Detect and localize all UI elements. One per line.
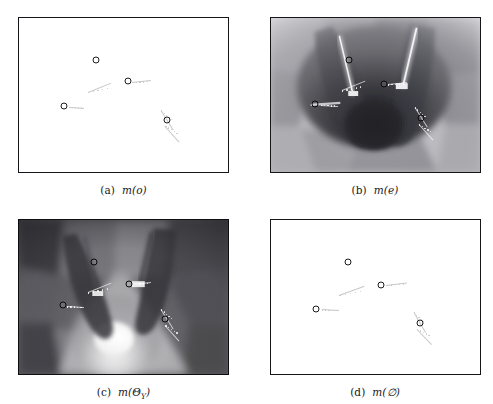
trace-speck	[420, 330, 421, 331]
landmark-marker	[344, 259, 351, 266]
landmark-marker	[60, 102, 67, 109]
trace-speck	[356, 87, 357, 88]
panel-a-raster	[19, 18, 228, 172]
trace-speck	[420, 112, 421, 113]
landmark-marker	[93, 57, 100, 64]
panel-a-image-frame	[18, 17, 229, 173]
trace-speck	[136, 82, 137, 83]
panel-d-image-frame	[270, 219, 481, 375]
landmark-marker	[312, 101, 319, 108]
panel-b-image-frame	[270, 17, 481, 173]
trace-speck	[426, 333, 427, 334]
trace-speck	[346, 89, 347, 90]
trace-speck	[350, 293, 351, 294]
landmark-marker	[313, 305, 320, 312]
panel-a-caption-function: m	[122, 184, 132, 196]
trace-speck	[419, 124, 420, 125]
trace-speck	[139, 283, 140, 284]
figure-panel-a: (a) m(o)	[0, 0, 247, 202]
landmark-marker	[91, 258, 98, 265]
landmark-marker	[124, 78, 131, 85]
trace-speck	[176, 133, 177, 134]
panel-b-raster	[271, 18, 480, 172]
panel-d-caption-function: m	[372, 386, 382, 398]
landmark-marker	[417, 115, 424, 122]
trace-speck	[424, 128, 425, 129]
trace-speck	[322, 309, 323, 310]
panel-c-caption-function: m	[118, 386, 128, 398]
landmark-marker	[59, 302, 66, 309]
trace-speck	[176, 332, 177, 333]
landmark-marker	[345, 56, 352, 63]
panel-c-caption: (c) m(ΘY)	[97, 386, 151, 401]
panel-c-raster	[19, 220, 228, 374]
trace-speck	[165, 325, 166, 326]
trace-speck	[386, 285, 387, 286]
panel-b-canvas	[271, 18, 480, 172]
trace-speck	[399, 84, 400, 85]
panel-c-image-frame	[18, 219, 229, 375]
panel-a-caption: (a) m(o)	[100, 184, 147, 196]
panel-d-raster	[271, 220, 480, 374]
panel-b-caption-function: m	[374, 184, 384, 196]
trace-speck	[97, 290, 98, 291]
panel-a-canvas	[19, 18, 228, 172]
panel-d-caption-index: (d)	[350, 386, 365, 398]
panel-d-canvas	[271, 220, 480, 374]
trace-speck	[139, 81, 140, 82]
panel-c-caption-index: (c)	[97, 386, 111, 398]
trace-speck	[415, 107, 416, 108]
panel-a-caption-index: (a)	[100, 184, 115, 196]
trace-speck	[165, 126, 166, 127]
panel-b-caption: (b) m(e)	[352, 184, 399, 196]
figure-panel-d: (d) m(∅)	[247, 202, 493, 404]
figure-panel-grid: (a) m(o)	[0, 0, 493, 404]
trace-speck	[93, 291, 94, 292]
landmark-marker	[378, 281, 385, 288]
figure-panel-b: (b) m(e)	[247, 0, 493, 202]
landmark-marker	[125, 280, 132, 287]
figure-panel-c: (c) m(ΘY)	[0, 202, 247, 404]
panel-d-caption: (d) m(∅)	[350, 386, 400, 398]
trace-speck	[164, 311, 165, 312]
trace-speck	[331, 105, 332, 106]
trace-speck	[70, 306, 71, 307]
trace-speck	[342, 90, 343, 91]
landmark-marker	[164, 117, 171, 124]
trace-speck	[345, 294, 346, 295]
trace-speck	[80, 307, 81, 308]
landmark-marker	[416, 320, 423, 327]
trace-speck	[414, 312, 415, 313]
panel-b-caption-index: (b)	[352, 184, 367, 196]
trace-speck	[417, 329, 418, 330]
panel-c-canvas	[19, 220, 228, 374]
trace-speck	[164, 113, 165, 114]
trace-speck	[328, 310, 329, 311]
trace-speck	[107, 288, 108, 289]
panel-d-caption-argument: ∅	[387, 386, 396, 398]
trace-speck	[427, 129, 428, 130]
trace-speck	[174, 331, 175, 332]
trace-speck	[332, 310, 333, 311]
panel-c-caption-argument: Θ	[132, 386, 141, 398]
landmark-marker	[162, 316, 169, 323]
trace-speck	[136, 284, 137, 285]
trace-speck	[339, 295, 340, 296]
trace-speck	[168, 316, 169, 317]
landmark-marker	[381, 81, 388, 88]
